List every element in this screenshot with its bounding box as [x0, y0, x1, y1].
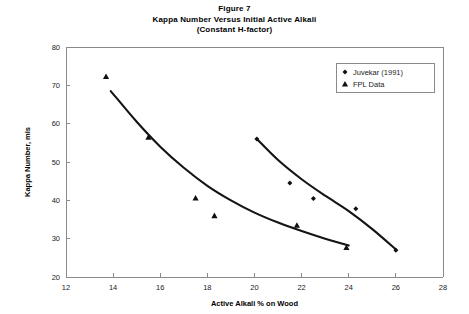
x-tick-label: 26 [392, 283, 400, 292]
x-tick-label: 18 [203, 283, 211, 292]
diamond-marker [311, 196, 316, 201]
x-tick-label: 20 [250, 283, 258, 292]
x-tick-label: 28 [439, 283, 447, 292]
y-tick-label: 60 [52, 119, 60, 128]
y-tick-label: 50 [52, 158, 60, 167]
x-tick-label: 22 [297, 283, 305, 292]
x-tick-label: 24 [345, 283, 353, 292]
diamond-marker [287, 181, 292, 186]
chart-plot: 12141618202224262820304050607080Active A… [0, 0, 469, 314]
chart-legend: Juvekar (1991)FPL Data [336, 63, 434, 92]
triangle-marker [211, 213, 217, 219]
y-tick-label: 70 [52, 81, 60, 90]
triangle-marker [192, 195, 198, 201]
y-tick-label: 30 [52, 234, 60, 243]
figure-container: Figure 7 Kappa Number Versus Initial Act… [0, 0, 469, 314]
x-tick-label: 12 [62, 283, 70, 292]
fit-curve-diamond [257, 139, 396, 249]
fit-curves-group [111, 91, 396, 249]
x-axis-title: Active Alkali % on Wood [211, 299, 299, 308]
y-tick-label: 80 [52, 43, 60, 52]
triangle-marker [294, 222, 300, 228]
y-axis-title: Kappa Number, mls [23, 127, 32, 197]
y-tick-label: 40 [52, 196, 60, 205]
x-tick-label: 14 [109, 283, 117, 292]
diamond-marker [353, 206, 358, 211]
fit-curve-triangle [111, 91, 349, 245]
y-tick-label: 20 [52, 273, 60, 282]
triangle-marker [103, 73, 109, 79]
legend-entry-label: Juvekar (1991) [353, 68, 404, 77]
legend-entry-label: FPL Data [353, 80, 385, 89]
data-markers-group [103, 73, 398, 252]
x-tick-label: 16 [156, 283, 164, 292]
